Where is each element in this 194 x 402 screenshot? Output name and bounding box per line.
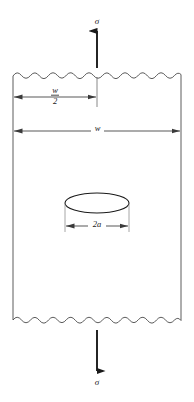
stress-label-top: σ bbox=[95, 16, 100, 26]
top-stress-arrow-group: σ bbox=[95, 16, 100, 68]
plate-outline bbox=[13, 73, 181, 323]
bottom-stress-arrow-group: σ bbox=[95, 330, 100, 387]
full-width-label: w bbox=[95, 123, 101, 133]
stress-label-bottom: σ bbox=[95, 377, 100, 387]
crack-length-label: 2a bbox=[93, 219, 102, 229]
half-width-numerator-label: w bbox=[52, 85, 58, 95]
full-width-dimension-group: w bbox=[14, 123, 180, 133]
plate-bottom-wavy-edge bbox=[13, 317, 181, 323]
center-crack-group: 2a bbox=[65, 193, 129, 232]
half-width-denominator-label: 2 bbox=[53, 96, 58, 106]
cracked-plate-diagram: σ w 2 w bbox=[0, 0, 194, 402]
half-width-dimension-group: w 2 bbox=[14, 77, 97, 107]
crack-ellipse bbox=[65, 193, 129, 213]
figure-canvas: σ w 2 w bbox=[0, 0, 194, 402]
